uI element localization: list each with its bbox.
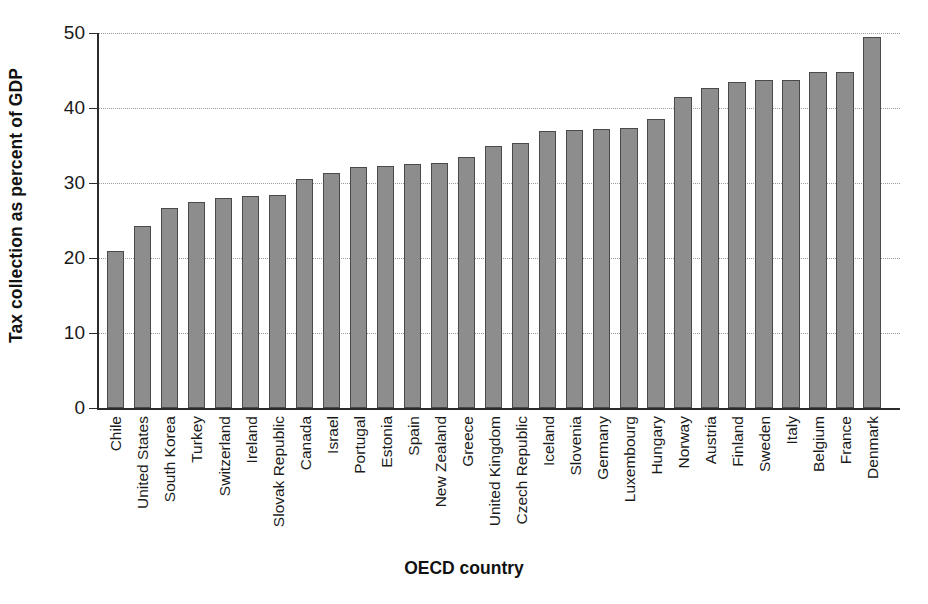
x-tick-label: Chile	[108, 416, 124, 451]
bar	[431, 163, 448, 408]
x-tick-label: United States	[135, 416, 151, 509]
x-tick-label: Slovenia	[568, 416, 584, 475]
bar	[620, 128, 637, 409]
bar	[215, 198, 232, 408]
gridline	[98, 108, 900, 109]
y-tick-label: 20	[64, 247, 85, 269]
bar	[269, 195, 286, 408]
bar	[323, 173, 340, 408]
bar	[782, 80, 799, 409]
gridline	[98, 33, 900, 34]
x-tick-label: Sweden	[757, 416, 773, 472]
x-axis-category-labels: ChileUnited StatesSouth KoreaTurkeySwitz…	[97, 412, 900, 552]
y-tick-mark	[89, 408, 97, 409]
bar	[566, 130, 583, 408]
y-axis-title: Tax collection as percent of GDP	[0, 0, 34, 410]
plot-area: 01020304050	[97, 33, 900, 408]
x-tick-label: Belgium	[811, 416, 827, 472]
x-tick-label: France	[838, 416, 854, 464]
y-tick-label: 50	[64, 22, 85, 44]
x-tick-label: Luxembourg	[622, 416, 638, 502]
x-tick-label: Iceland	[541, 416, 557, 466]
y-tick-mark	[89, 108, 97, 109]
x-tick-label: Finland	[730, 416, 746, 467]
y-tick-mark	[89, 333, 97, 334]
bar	[539, 131, 556, 409]
bar	[134, 226, 151, 408]
x-tick-label: Israel	[325, 416, 341, 454]
x-tick-label: Ireland	[244, 416, 260, 463]
x-axis-line	[97, 408, 900, 410]
bar	[512, 143, 529, 408]
x-tick-label: Spain	[406, 416, 422, 456]
x-tick-label: Switzerland	[217, 416, 233, 496]
x-tick-label: Italy	[784, 416, 800, 444]
x-tick-label: Turkey	[189, 416, 205, 463]
bar	[809, 72, 826, 408]
y-tick-label: 40	[64, 97, 85, 119]
bar	[485, 146, 502, 409]
x-tick-label: South Korea	[162, 416, 178, 502]
x-tick-label: Portugal	[352, 416, 368, 474]
y-tick-mark	[89, 33, 97, 34]
y-tick-label: 30	[64, 172, 85, 194]
y-axis-line	[97, 33, 99, 408]
bar	[458, 157, 475, 408]
x-tick-label: Austria	[703, 416, 719, 464]
bar	[647, 119, 664, 409]
bar	[377, 166, 394, 408]
bar	[296, 179, 313, 409]
bar	[728, 82, 745, 408]
bar	[836, 72, 853, 408]
x-tick-label: Denmark	[865, 416, 881, 479]
x-tick-label: Czech Republic	[514, 416, 530, 525]
bar	[161, 208, 178, 408]
bar	[593, 129, 610, 408]
y-tick-mark	[89, 258, 97, 259]
y-axis-title-text: Tax collection as percent of GDP	[7, 67, 28, 342]
x-tick-label: Germany	[595, 416, 611, 480]
x-tick-label: Hungary	[649, 416, 665, 475]
x-tick-label: Norway	[676, 416, 692, 469]
bar	[350, 167, 367, 409]
x-tick-label: Canada	[298, 416, 314, 470]
y-tick-label: 10	[64, 322, 85, 344]
x-tick-label: New Zealand	[433, 416, 449, 507]
bar	[188, 202, 205, 408]
bar	[107, 251, 124, 408]
x-tick-label: Slovak Republic	[271, 416, 287, 527]
bar	[404, 164, 421, 408]
bar	[863, 37, 880, 408]
y-tick-mark	[89, 183, 97, 184]
x-tick-label: Greece	[460, 416, 476, 467]
bar-chart-figure: Tax collection as percent of GDP 0102030…	[0, 0, 928, 604]
x-axis-title: OECD country	[0, 558, 928, 579]
x-tick-label: United Kingdom	[487, 416, 503, 526]
bar	[701, 88, 718, 408]
bar	[242, 196, 259, 408]
bar	[674, 97, 691, 408]
x-tick-label: Estonia	[379, 416, 395, 468]
y-tick-label: 0	[74, 397, 85, 419]
bar	[755, 80, 772, 409]
